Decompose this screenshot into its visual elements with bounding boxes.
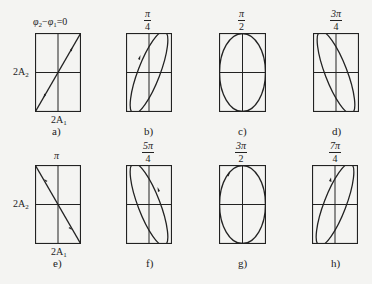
phase-fraction-g: 3π 2: [235, 141, 247, 164]
phase-fraction-h: 7π 4: [329, 141, 341, 164]
lissajous-plot-a: [35, 33, 81, 112]
caption-d: d): [332, 126, 341, 137]
y-axis-label-a: 2A2: [13, 66, 29, 79]
y-axis-sub: 2: [25, 203, 29, 211]
phase-fraction-b: π 4: [144, 9, 151, 32]
fraction-denominator: 4: [334, 21, 339, 32]
caption-e: e): [53, 258, 62, 269]
x-axis-base: 2A: [51, 246, 63, 257]
phase-title-a: φ2−φ1=0: [33, 16, 67, 29]
fraction-numerator: 7π: [329, 141, 341, 153]
fraction-denominator: 4: [145, 21, 150, 32]
x-axis-sub: 1: [63, 119, 67, 127]
caption-h: h): [331, 258, 340, 269]
caption-a: a): [52, 126, 61, 137]
fraction-numerator: π: [144, 9, 151, 21]
lissajous-plot-c: [219, 33, 266, 112]
caption-g: g): [238, 258, 247, 269]
fraction-denominator: 2: [239, 153, 244, 164]
fraction-denominator: 4: [146, 153, 151, 164]
fraction-numerator: 3π: [235, 141, 247, 153]
caption-b: b): [144, 126, 153, 137]
caption-c: c): [238, 126, 247, 137]
phase-title-e: π: [54, 150, 59, 161]
lissajous-plot-f: [126, 165, 172, 244]
lissajous-plot-d: [313, 33, 359, 112]
fraction-numerator: π: [238, 9, 245, 21]
y-axis-base: 2A: [13, 66, 25, 77]
x-axis-base: 2A: [51, 114, 63, 125]
fraction-numerator: 3π: [330, 9, 342, 21]
phase-fraction-f: 5π 4: [142, 141, 154, 164]
fraction-denominator: 2: [239, 21, 244, 32]
lissajous-plot-h: [312, 165, 358, 244]
caption-f: f): [146, 258, 153, 269]
fraction-numerator: 5π: [142, 141, 154, 153]
y-axis-label-e: 2A2: [13, 198, 29, 211]
lissajous-plot-b: [126, 33, 172, 112]
equals-zero: =0: [57, 16, 68, 27]
lissajous-plot-e: [35, 165, 81, 244]
phase-fraction-c: π 2: [238, 9, 245, 32]
phase-fraction-d: 3π 4: [330, 9, 342, 32]
pi-symbol: π: [54, 150, 59, 161]
fraction-denominator: 4: [333, 153, 338, 164]
lissajous-plot-g: [219, 165, 266, 244]
y-axis-sub: 2: [25, 71, 29, 79]
x-axis-sub: 1: [63, 251, 67, 259]
y-axis-base: 2A: [13, 198, 25, 209]
